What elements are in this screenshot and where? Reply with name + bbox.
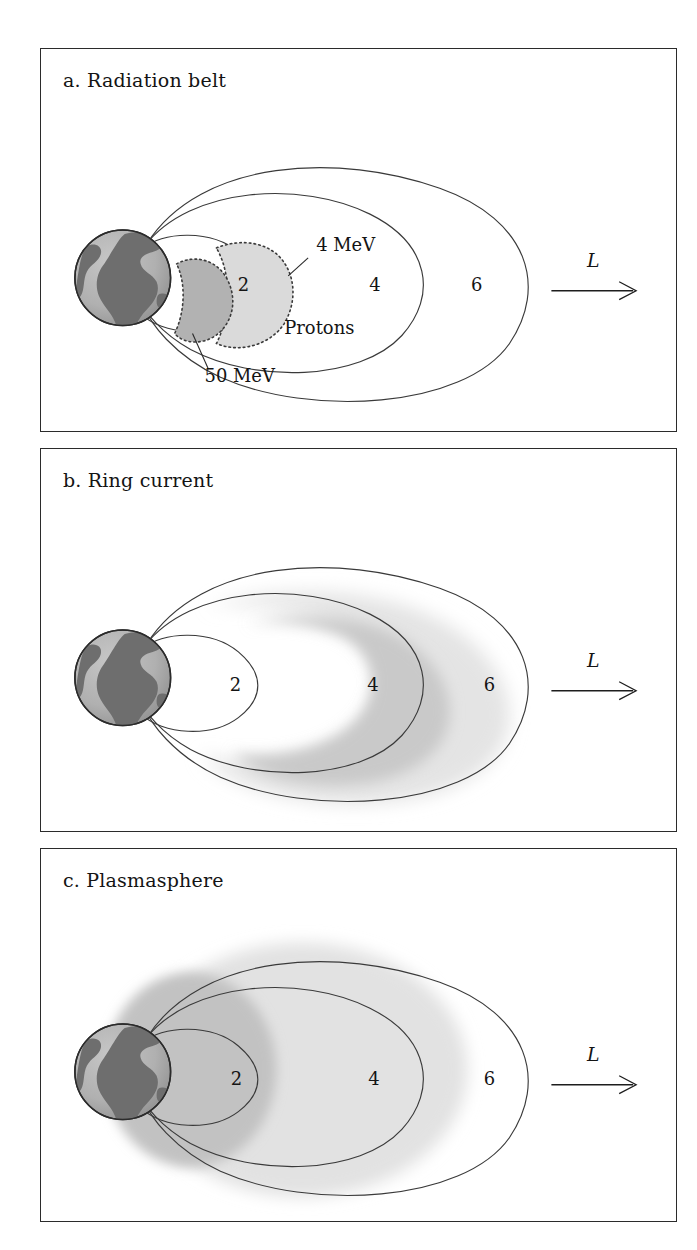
panel-b-graphic: 2 4 6 L (41, 449, 676, 831)
panel-radiation-belt: a. Radiation belt (40, 48, 677, 432)
l-axis-arrow-a: L (551, 249, 636, 300)
lshell-label-2: 2 (238, 274, 249, 295)
l-axis-arrow-b: L (551, 649, 636, 700)
panel-plasmasphere: c. Plasmasphere (40, 848, 677, 1222)
lshell-label-4: 4 (368, 1068, 379, 1089)
annotation-4mev: 4 MeV (316, 234, 376, 255)
lshell-label-4: 4 (369, 274, 380, 295)
axis-label-l: L (586, 249, 600, 271)
annotation-50mev: 50 MeV (204, 365, 275, 386)
lshell-label-2: 2 (231, 1068, 242, 1089)
panel-ring-current: b. Ring current (40, 448, 677, 832)
annotation-protons: Protons (284, 318, 354, 339)
lshell-label-2: 2 (230, 674, 241, 695)
panel-c-graphic: 2 4 6 L (41, 849, 676, 1221)
panel-a-graphic: 2 4 6 4 MeV Protons 50 MeV L (41, 49, 676, 431)
axis-label-l: L (586, 649, 600, 671)
lshell-label-6: 6 (484, 674, 495, 695)
leader-4mev (288, 258, 308, 276)
l-axis-arrow-c: L (551, 1043, 636, 1094)
figure-root: a. Radiation belt (0, 0, 697, 1250)
lshell-label-6: 6 (471, 274, 482, 295)
earth-globe (75, 226, 171, 348)
lshell-label-6: 6 (484, 1068, 495, 1089)
lshell-label-4: 4 (367, 674, 378, 695)
axis-label-l: L (586, 1043, 600, 1065)
earth-globe (75, 626, 171, 748)
